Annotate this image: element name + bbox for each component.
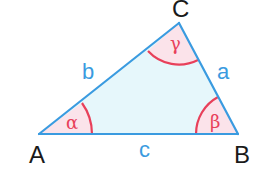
vertex-label-b: B bbox=[234, 141, 250, 168]
triangle-diagram: A B C a b c α β γ bbox=[0, 0, 262, 182]
angle-label-beta: β bbox=[210, 111, 220, 132]
side-label-c: c bbox=[139, 137, 150, 162]
angle-label-alpha: α bbox=[66, 112, 78, 133]
side-label-a: a bbox=[217, 59, 230, 84]
vertex-label-a: A bbox=[29, 141, 45, 168]
vertex-label-c: C bbox=[172, 0, 189, 22]
side-label-b: b bbox=[82, 59, 94, 84]
angle-label-gamma: γ bbox=[170, 33, 181, 54]
